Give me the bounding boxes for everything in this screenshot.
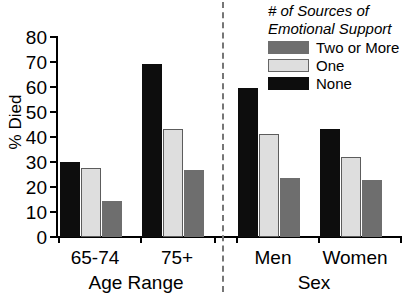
x-tick-mark xyxy=(214,236,216,243)
bar-one xyxy=(81,168,101,237)
bar-none xyxy=(238,88,258,237)
bar-chart: % Died 80 70 60 50 40 30 20 10 0 xyxy=(0,0,408,294)
legend-swatch-one xyxy=(268,59,309,72)
bar-none xyxy=(142,64,162,237)
x-category-label-75-plus: 75+ xyxy=(140,248,214,267)
y-tick-label: 30 xyxy=(13,153,47,172)
y-tick-label: 70 xyxy=(13,53,47,72)
y-axis-tick-labels: 80 70 60 50 40 30 20 10 0 xyxy=(13,0,47,294)
y-tick-label: 60 xyxy=(13,78,47,97)
x-tick-mark xyxy=(236,236,238,243)
y-tick-label: 0 xyxy=(13,228,47,247)
legend-swatch-two-or-more xyxy=(268,41,309,54)
bar-none xyxy=(60,162,80,237)
bar-two-or-more xyxy=(362,180,382,237)
legend-label: Two or More xyxy=(316,40,399,55)
y-tick-label: 40 xyxy=(13,128,47,147)
legend-item-one: One xyxy=(268,58,408,73)
y-tick-label: 20 xyxy=(13,178,47,197)
y-tick-label: 80 xyxy=(13,28,47,47)
legend-label: One xyxy=(316,58,344,73)
x-category-label-women: Women xyxy=(318,248,392,267)
x-section-label-sex: Sex xyxy=(236,273,392,292)
legend-label: None xyxy=(316,76,352,91)
legend-title-line1: # of Sources of xyxy=(268,2,408,20)
legend-item-none: None xyxy=(268,76,408,91)
bar-group-75-plus xyxy=(142,36,214,237)
x-tick-mark xyxy=(58,236,60,243)
legend-swatch-none xyxy=(268,77,309,90)
bar-one xyxy=(163,129,183,237)
legend-title-line2: Emotional Support xyxy=(268,20,408,38)
legend-item-two-or-more: Two or More xyxy=(268,40,408,55)
x-tick-mark xyxy=(140,236,142,243)
x-tick-mark xyxy=(400,236,402,243)
bar-two-or-more xyxy=(184,170,204,237)
y-tick-label: 10 xyxy=(13,203,47,222)
bar-group-65-74 xyxy=(60,36,132,237)
y-tick-label: 50 xyxy=(13,103,47,122)
bar-two-or-more xyxy=(102,201,122,237)
bar-two-or-more xyxy=(280,178,300,237)
legend: # of Sources of Emotional Support Two or… xyxy=(268,2,408,91)
x-section-label-age-range: Age Range xyxy=(58,273,214,292)
bar-none xyxy=(320,129,340,237)
bar-one xyxy=(341,157,361,237)
panel-divider xyxy=(222,2,224,292)
x-tick-mark xyxy=(318,236,320,243)
x-category-label-men: Men xyxy=(236,248,310,267)
x-category-label-65-74: 65-74 xyxy=(58,248,132,267)
bar-one xyxy=(259,134,279,237)
